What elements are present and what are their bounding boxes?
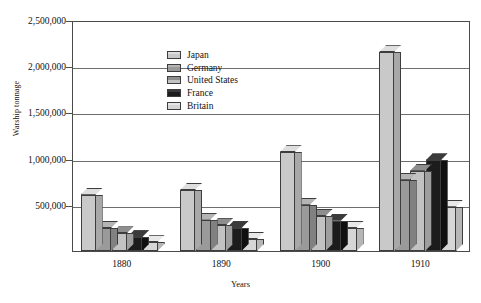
bar-side-face (158, 242, 165, 251)
bar-group (372, 22, 472, 251)
bar-side-face (410, 180, 417, 251)
y-axis-tick-labels: 500,0001,000,0001,500,0002,000,0002,500,… (0, 0, 66, 303)
y-tick-label: 1,000,000 (8, 155, 66, 165)
legend-label: France (187, 88, 213, 98)
y-tick-label: 500,000 (8, 201, 66, 211)
bar (180, 190, 195, 251)
bar-top-face (81, 188, 103, 195)
bar-side-face (425, 171, 432, 251)
legend-swatch (167, 102, 181, 110)
bar-side-face (295, 152, 302, 251)
bar-front-face (180, 190, 195, 251)
legend-item-britain: Britain (167, 99, 287, 112)
legend-label: Britain (187, 101, 213, 111)
bar-top-face (379, 45, 401, 52)
legend-label: Germany (187, 63, 222, 73)
bar-top-face (280, 145, 302, 152)
legend-swatch (167, 64, 181, 72)
bar-group (73, 22, 173, 251)
x-tick-label: 1880 (92, 259, 152, 269)
chart-legend: JapanGermanyUnited StatesFranceBritain (167, 49, 287, 112)
legend-item-france: France (167, 87, 287, 100)
y-tick-label: 1,500,000 (8, 108, 66, 118)
bar (280, 152, 295, 251)
warship-tonnage-chart: Warship tonnage 500,0001,000,0001,500,00… (0, 0, 481, 303)
x-tick-label: 1890 (191, 259, 251, 269)
bar-side-face (456, 207, 463, 251)
legend-item-germany: Germany (167, 62, 287, 75)
y-tick-label: 2,000,000 (8, 62, 66, 72)
bar-side-face (195, 190, 202, 251)
legend-swatch (167, 89, 181, 97)
bar-front-face (379, 52, 394, 251)
bar-side-face (310, 205, 317, 251)
bar-front-face (280, 152, 295, 251)
bar-top-face (180, 183, 202, 190)
x-tick-label: 1900 (291, 259, 351, 269)
bar-side-face (394, 52, 401, 251)
bar-front-face (81, 195, 96, 251)
x-tick-label: 1910 (390, 259, 450, 269)
legend-label: United States (187, 75, 238, 85)
legend-item-japan: Japan (167, 49, 287, 62)
x-axis-title: Years (0, 279, 481, 289)
bar-side-face (441, 160, 448, 251)
legend-item-united-states: United States (167, 74, 287, 87)
bar-side-face (96, 195, 103, 251)
bar-side-face (357, 228, 364, 251)
bar (81, 195, 96, 251)
y-tick-label: 2,500,000 (8, 16, 66, 26)
bar-side-face (257, 239, 264, 251)
legend-swatch (167, 76, 181, 84)
legend-label: Japan (187, 50, 209, 60)
legend-swatch (167, 51, 181, 59)
bar (379, 52, 394, 251)
plot-area: JapanGermanyUnited StatesFranceBritain (72, 21, 470, 252)
bar-top-face (426, 153, 448, 160)
